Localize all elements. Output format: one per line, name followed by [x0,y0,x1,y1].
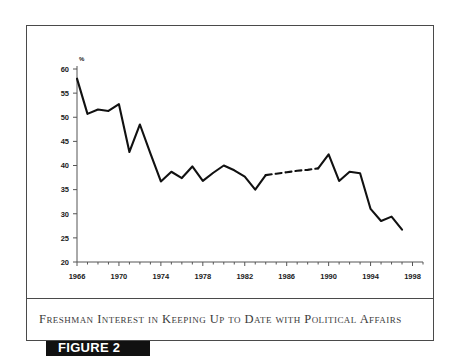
x-axis-tick-label: 1990 [320,272,337,281]
data-line [318,154,402,229]
figure-caption: Freshman Interest in Keeping Up to Date … [27,299,433,340]
x-axis-tick-label: 1998 [404,272,421,281]
figure-frame: 202530354045505560%196619701974197819821… [26,25,434,341]
y-axis-tick-label: 20 [61,258,69,267]
data-line-interpolated [266,168,318,175]
x-axis-tick-label: 1986 [278,272,295,281]
line-chart: 202530354045505560%196619701974197819821… [27,26,433,298]
y-axis-tick-label: 40 [61,161,69,170]
y-axis-tick-label: 25 [61,234,69,243]
y-axis-tick-label: 45 [61,137,69,146]
x-axis-tick-label: 1994 [362,272,380,281]
x-axis-tick-label: 1974 [153,272,171,281]
data-line [77,79,266,190]
figure-caption-text: Freshman Interest in Keeping Up to Date … [27,312,402,327]
figure-page: 202530354045505560%196619701974197819821… [0,0,461,356]
y-axis-tick-label: 35 [61,185,69,194]
y-axis-tick-label: 55 [61,89,69,98]
y-axis-tick-label: 50 [61,113,69,122]
figure-number-tab: FIGURE 2 [46,341,150,356]
x-axis-tick-label: 1966 [69,272,86,281]
y-axis-tick-label: 30 [61,210,69,219]
x-axis-tick-label: 1982 [236,272,253,281]
chart-area: 202530354045505560%196619701974197819821… [27,26,433,298]
x-axis-tick-label: 1978 [194,272,211,281]
y-axis-tick-label: 60 [61,65,69,74]
x-axis-tick-label: 1970 [111,272,128,281]
y-axis-unit-label: % [79,56,85,62]
figure-number-label: FIGURE 2 [58,341,120,355]
